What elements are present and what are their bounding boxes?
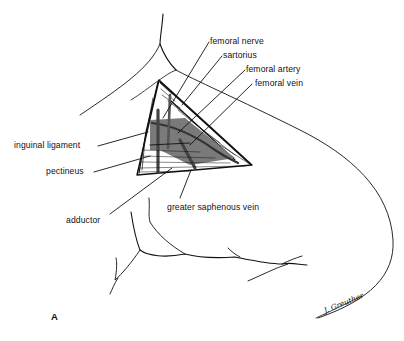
knee-branch-1 [228, 248, 240, 257]
groin-crease-left [80, 44, 160, 115]
label-femoral-nerve: femoral nerve [210, 37, 264, 46]
label-femoral-artery: femoral artery [246, 65, 300, 74]
label-inguinal-ligament: inguinal ligament [14, 141, 80, 150]
leg-lower-contour [131, 212, 307, 265]
label-femoral-vein: femoral vein [255, 79, 303, 88]
knee-branch-3 [248, 264, 288, 281]
abdomen-outline [160, 14, 176, 70]
label-adductor: adductor [66, 216, 100, 225]
foot-contour [110, 278, 118, 294]
knee-branch-2 [282, 256, 302, 264]
label-sartorius: sartorius [223, 51, 257, 60]
label-pectineus: pectineus [46, 167, 84, 176]
panel-label: A [51, 312, 58, 322]
calf-contour [115, 250, 140, 280]
label-greater-saphenous-vein: greater saphenous vein [167, 203, 259, 212]
thigh-outer-line [176, 70, 393, 318]
